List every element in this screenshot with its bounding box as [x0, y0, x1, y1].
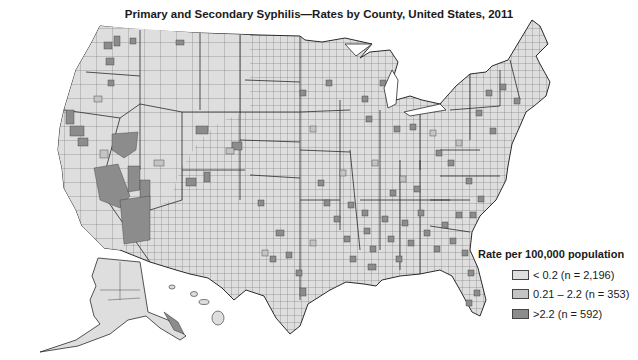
legend-label-high: >2.2 (n = 592) — [533, 308, 602, 320]
legend-item-low: < 0.2 (n = 2,196) — [512, 265, 638, 285]
legend-swatch-mid — [512, 289, 529, 299]
hawaii-inset — [169, 285, 224, 325]
legend-label-mid: 0.21 – 2.2 (n = 353) — [533, 288, 629, 300]
legend-label-low: < 0.2 (n = 2,196) — [533, 269, 614, 281]
legend-swatch-high — [512, 309, 529, 319]
legend-item-high: >2.2 (n = 592) — [512, 304, 638, 324]
legend: Rate per 100,000 population < 0.2 (n = 2… — [478, 248, 638, 324]
legend-item-mid: 0.21 – 2.2 (n = 353) — [512, 285, 638, 305]
legend-swatch-low — [512, 270, 529, 280]
legend-title: Rate per 100,000 population — [478, 248, 638, 260]
alaska-inset — [40, 258, 186, 352]
